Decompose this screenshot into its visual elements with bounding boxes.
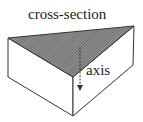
axis-label: axis	[86, 62, 110, 78]
cross-section-label: cross-section	[28, 6, 107, 22]
prism-diagram: cross-section axis	[0, 0, 143, 122]
